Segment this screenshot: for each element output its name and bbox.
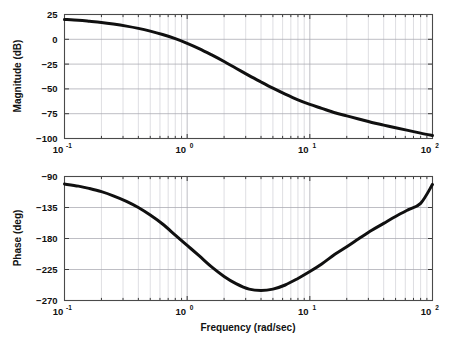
y-tick-label: −270 <box>36 295 57 306</box>
x-tick-label-exponent: 0 <box>190 304 194 311</box>
x-tick-label-mantissa: 10 <box>53 144 64 155</box>
figure-background <box>0 0 453 346</box>
x-tick-label-exponent: 2 <box>435 304 439 311</box>
y-tick-label: −135 <box>36 202 58 213</box>
x-tick-label-exponent: -1 <box>66 304 72 311</box>
y-tick-label: −225 <box>36 264 58 275</box>
y-tick-label: 25 <box>47 9 58 20</box>
frequency-axis-title: Frequency (rad/sec) <box>200 322 295 333</box>
x-tick-label-mantissa: 10 <box>421 306 432 317</box>
x-tick-label-exponent: 1 <box>313 304 317 311</box>
y-tick-label: −90 <box>41 171 57 182</box>
x-tick-label-exponent: 1 <box>313 142 317 149</box>
y-tick-label: 0 <box>52 34 57 45</box>
phase-axis-title: Phase (deg) <box>12 210 23 267</box>
x-tick-label-exponent: -1 <box>66 142 72 149</box>
bode-plot-figure: 250−25−50−75−100 10-1100101102 Magnitude… <box>0 0 453 346</box>
y-tick-label: −50 <box>41 83 57 94</box>
magnitude-axis-title: Magnitude (dB) <box>12 40 23 113</box>
y-tick-label: −100 <box>36 133 57 144</box>
x-tick-label-mantissa: 10 <box>175 306 186 317</box>
bode-plot-svg: 250−25−50−75−100 10-1100101102 Magnitude… <box>0 0 453 346</box>
x-tick-label-exponent: 0 <box>190 142 194 149</box>
x-tick-label-mantissa: 10 <box>53 306 64 317</box>
x-tick-label-mantissa: 10 <box>175 144 186 155</box>
y-tick-label: −75 <box>41 108 58 119</box>
y-tick-label: −180 <box>36 233 57 244</box>
x-tick-label-exponent: 2 <box>435 142 439 149</box>
x-tick-label-mantissa: 10 <box>298 306 309 317</box>
x-tick-label-mantissa: 10 <box>298 144 309 155</box>
y-tick-label: −25 <box>41 59 58 70</box>
x-tick-label-mantissa: 10 <box>421 144 432 155</box>
